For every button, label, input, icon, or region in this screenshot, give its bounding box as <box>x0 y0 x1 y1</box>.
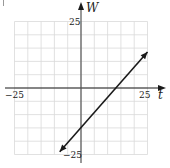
y-max-tick-label: 25 <box>69 17 81 27</box>
x-max-tick-label: 25 <box>139 90 151 100</box>
w-axis-arrow-icon <box>78 2 84 10</box>
x-min-tick-label: −25 <box>5 90 24 100</box>
y-axis-label: W <box>86 1 100 15</box>
y-min-tick-label: −25 <box>63 150 82 160</box>
x-axis-label: t <box>158 88 163 102</box>
axes <box>5 2 166 163</box>
line-chart: W t 25 −25 25 −25 <box>0 0 170 168</box>
